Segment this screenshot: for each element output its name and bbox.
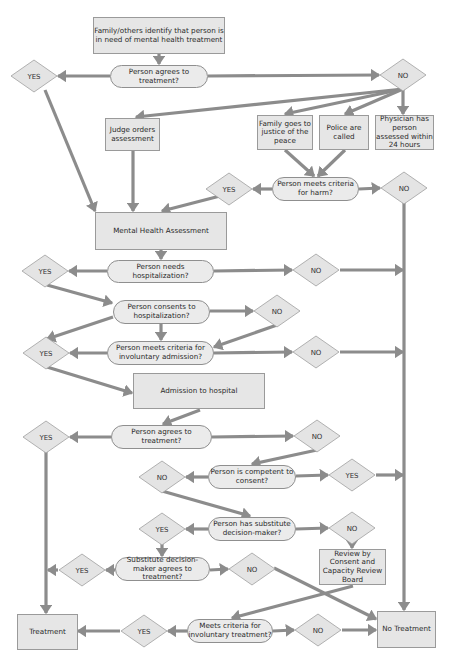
question-involuntary-treatment: Meets criteria for involuntary treatment… bbox=[187, 619, 273, 643]
connector-arrow bbox=[232, 586, 353, 618]
question-label: Person meets criteria for harm? bbox=[273, 180, 358, 197]
question-label: Substitute decision-maker agrees to trea… bbox=[116, 556, 209, 582]
question-agrees-treatment-2: Person agrees to treatment? bbox=[111, 425, 212, 449]
question-label: Person agrees to treatment? bbox=[112, 428, 211, 445]
decision-diamond-no-substitute: NO bbox=[329, 512, 375, 544]
diamond-label: NO bbox=[247, 566, 258, 574]
connector-arrow bbox=[214, 352, 292, 353]
diamond-label: YES bbox=[221, 186, 236, 194]
connector-arrow bbox=[285, 89, 403, 114]
decision-diamond-no-needs-hosp: NO bbox=[293, 254, 339, 286]
connector-arrow bbox=[47, 367, 132, 393]
decision-diamond-no-sdm: NO bbox=[229, 553, 275, 585]
question-consents-hospitalization: Person consents to hospitalization? bbox=[113, 300, 210, 324]
connector-arrow bbox=[45, 90, 95, 211]
decision-diamond-no-consents-hosp: NO bbox=[254, 295, 300, 327]
diamond-label: NO bbox=[398, 72, 409, 80]
decision-diamond-yes-invol-treatment: YES bbox=[121, 615, 167, 647]
connector-arrow bbox=[47, 285, 112, 303]
decision-diamond-no-invol-admission: NO bbox=[293, 336, 339, 368]
connector-arrow bbox=[273, 630, 294, 631]
box-label: Admission to hospital bbox=[160, 387, 237, 396]
family-justice-box: Family goes to justice of the peace bbox=[257, 115, 313, 150]
connector-arrow bbox=[47, 317, 113, 339]
question-criteria-harm: Person meets criteria for harm? bbox=[272, 177, 359, 201]
connector-arrow bbox=[212, 436, 293, 437]
question-needs-hospitalization: Person needs hospitalization? bbox=[107, 260, 214, 283]
connector-arrow bbox=[318, 150, 345, 176]
connector-arrow bbox=[162, 491, 250, 516]
diamond-label: NO bbox=[311, 349, 322, 357]
question-label: Meets criteria for involuntary treatment… bbox=[188, 622, 272, 639]
diamond-label: NO bbox=[311, 267, 322, 275]
diamond-label: YES bbox=[344, 472, 359, 480]
connector-arrow bbox=[162, 196, 220, 211]
connector-arrow bbox=[214, 325, 277, 347]
connector-arrow bbox=[296, 528, 328, 529]
diamond-label: NO bbox=[399, 185, 410, 193]
diamond-label: NO bbox=[157, 474, 168, 482]
decision-diamond-yes-substitute: YES bbox=[139, 513, 185, 545]
decision-diamond-yes-harm: YES bbox=[206, 173, 252, 205]
diamond-label: YES bbox=[26, 73, 41, 81]
decision-diamond-yes-needs-hosp: YES bbox=[22, 255, 68, 287]
connector-arrow bbox=[163, 410, 200, 424]
question-label: Person needs hospitalization? bbox=[108, 263, 213, 280]
question-sdm-agrees: Substitute decision-maker agrees to trea… bbox=[115, 557, 210, 581]
connector-arrow bbox=[252, 450, 317, 464]
connector-arrow bbox=[136, 89, 403, 117]
decision-diamond-yes-invol-admission: YES bbox=[23, 337, 69, 369]
question-competent-consent: Person is competent to consent? bbox=[208, 465, 296, 489]
admission-hospital-box: Admission to hospital bbox=[133, 373, 265, 409]
connector-arrow bbox=[285, 150, 314, 176]
diamond-label: YES bbox=[37, 268, 52, 276]
box-label: Family goes to justice of the peace bbox=[258, 120, 312, 146]
mental-health-assessment-box: Mental Health Assessment bbox=[95, 212, 227, 250]
start-box: Family/others identify that person is in… bbox=[93, 17, 225, 54]
box-label: Judge orders assessment bbox=[106, 126, 159, 143]
judge-orders-box: Judge orders assessment bbox=[105, 118, 160, 151]
physician-assessed-box: Physician has person assessed within 24 … bbox=[375, 115, 434, 150]
diamond-label: YES bbox=[74, 567, 89, 575]
diamond-label: NO bbox=[313, 627, 324, 635]
box-label: Treatment bbox=[29, 628, 66, 637]
diamond-label: YES bbox=[154, 526, 169, 534]
box-label: No Treatment bbox=[382, 625, 431, 634]
decision-diamond-yes-agrees-2: YES bbox=[23, 421, 69, 453]
start-label: Family/others identify that person is in… bbox=[94, 27, 224, 44]
box-label: Physician has person assessed within 24 … bbox=[376, 115, 433, 149]
review-board-box: Review by Consent and Capacity Review Bo… bbox=[319, 549, 386, 585]
question-label: Person has substitute decision-maker? bbox=[209, 520, 295, 537]
decision-diamond-no-invol-treatment: NO bbox=[295, 614, 341, 646]
connector-arrow bbox=[210, 569, 228, 570]
diamond-label: NO bbox=[272, 308, 283, 316]
question-substitute-decision-maker: Person has substitute decision-maker? bbox=[208, 517, 296, 541]
box-label: Police are called bbox=[320, 124, 368, 141]
question-label: Person is competent to consent? bbox=[209, 468, 295, 485]
diamond-label: NO bbox=[312, 433, 323, 441]
diamond-label: YES bbox=[38, 434, 53, 442]
question-label: Person consents to hospitalization? bbox=[114, 303, 209, 320]
diamond-label: YES bbox=[136, 628, 151, 636]
no-treatment-box: No Treatment bbox=[377, 611, 436, 648]
decision-diamond-yes-1: YES bbox=[11, 60, 57, 92]
decision-diamond-no-harm: NO bbox=[381, 172, 427, 204]
diamond-label: NO bbox=[347, 525, 358, 533]
treatment-box: Treatment bbox=[17, 614, 78, 650]
box-label: Mental Health Assessment bbox=[113, 227, 209, 236]
decision-diamond-yes-competent: YES bbox=[329, 459, 375, 491]
police-called-box: Police are called bbox=[319, 115, 369, 150]
connector-arrow bbox=[296, 475, 328, 476]
connector-arrow bbox=[214, 270, 292, 271]
decision-diamond-yes-sdm: YES bbox=[59, 554, 105, 586]
question-agrees-treatment-1: Person agrees to treatment? bbox=[110, 65, 208, 88]
question-label: Person meets criteria for involuntary ad… bbox=[108, 344, 213, 361]
question-label: Person agrees to treatment? bbox=[111, 68, 207, 85]
question-involuntary-admission: Person meets criteria for involuntary ad… bbox=[107, 341, 214, 365]
box-label: Review by Consent and Capacity Review Bo… bbox=[320, 550, 385, 584]
decision-diamond-no-agrees-2: NO bbox=[294, 420, 340, 452]
decision-diamond-no-1: NO bbox=[380, 59, 426, 91]
decision-diamond-no-competent: NO bbox=[139, 461, 185, 493]
connector-arrow bbox=[359, 188, 380, 189]
connector-arrow bbox=[208, 75, 379, 76]
